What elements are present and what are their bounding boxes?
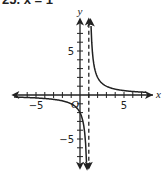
y-axis-label: y [77, 5, 83, 17]
graph: xyO−555−5 [0, 0, 167, 178]
y-tick-label: 5 [68, 46, 74, 57]
right-branch-curve [91, 26, 146, 92]
origin-label: O [71, 98, 79, 110]
axes [11, 18, 153, 170]
y-tick-label: −5 [59, 134, 74, 145]
x-tick-label: 5 [121, 100, 127, 111]
axis-labels: xyO−555−5 [29, 5, 161, 145]
x-axis-label: x [155, 88, 161, 100]
x-tick-label: −5 [29, 100, 44, 111]
